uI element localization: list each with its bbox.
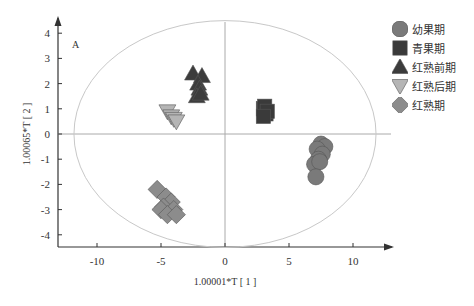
legend-marker <box>392 97 408 113</box>
series-circle <box>307 136 333 185</box>
x-tick-label: 10 <box>348 255 360 267</box>
y-tick-label: -2 <box>41 178 50 190</box>
legend-label: 幼果期 <box>412 21 445 37</box>
triangle-down-marker-icon <box>392 78 408 94</box>
panel-label: A <box>72 39 80 50</box>
series-triangle-down <box>159 105 185 130</box>
legend-label: 红熟前期 <box>412 59 456 75</box>
legend-item: 青果期 <box>392 38 456 57</box>
axes: -4-3-2-101234-10-50510 <box>41 16 394 267</box>
triangle-up-marker-icon <box>392 59 408 75</box>
x-tick-label: 5 <box>286 255 292 267</box>
legend-marker <box>393 40 407 54</box>
y-axis-label: 1.00065*T [ 2 ] <box>21 103 32 166</box>
diamond-marker-icon <box>392 97 408 113</box>
y-tick-label: 1 <box>45 103 51 115</box>
series-square <box>256 99 274 123</box>
x-axis-label: 1.00001*T [ 1 ] <box>194 276 257 287</box>
legend-marker <box>392 21 408 37</box>
x-axis-arrow-icon <box>384 244 394 251</box>
legend-item: 红熟后期 <box>392 76 456 95</box>
series-triangle-up <box>185 65 211 103</box>
legend-label: 红熟后期 <box>412 78 456 94</box>
square-marker-icon <box>392 40 408 56</box>
circle-marker-icon <box>392 21 408 37</box>
legend: 幼果期青果期红熟前期红熟后期红熟期 <box>392 19 456 114</box>
data-point <box>308 169 324 185</box>
y-tick-label: 4 <box>45 27 51 39</box>
legend-item: 幼果期 <box>392 19 456 38</box>
legend-item: 红熟期 <box>392 95 456 114</box>
y-tick-label: 0 <box>45 128 51 140</box>
data-points <box>148 65 333 224</box>
data-point <box>256 109 270 123</box>
x-tick-label: 0 <box>222 255 228 267</box>
legend-label: 红熟期 <box>412 97 445 113</box>
series-diamond <box>148 180 185 223</box>
y-tick-label: -1 <box>41 153 50 165</box>
y-tick-label: 2 <box>45 78 51 90</box>
x-tick-label: -5 <box>156 255 166 267</box>
legend-marker <box>392 59 408 74</box>
legend-item: 红熟前期 <box>392 57 456 76</box>
y-axis-arrow-icon <box>55 16 62 26</box>
x-tick-label: -10 <box>90 255 105 267</box>
y-tick-label: 3 <box>45 52 51 64</box>
y-tick-label: -4 <box>41 229 51 241</box>
legend-label: 青果期 <box>412 40 445 56</box>
data-point <box>312 154 328 170</box>
legend-marker <box>392 79 408 94</box>
y-tick-label: -3 <box>41 204 51 216</box>
